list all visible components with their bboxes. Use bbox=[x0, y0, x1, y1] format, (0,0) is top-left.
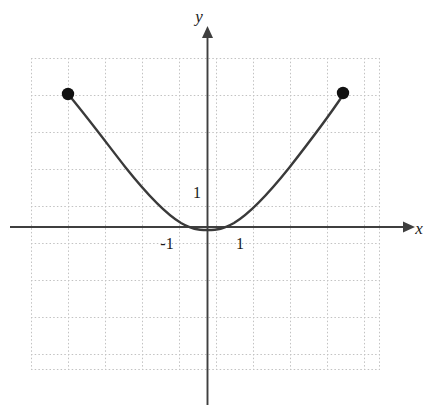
y-tick-label-one: 1 bbox=[193, 184, 201, 201]
x-axis-label: x bbox=[414, 219, 423, 238]
x-tick-label-one: 1 bbox=[236, 235, 244, 252]
x-axis-arrow-icon bbox=[403, 222, 415, 233]
x-tick-label-minus-one: -1 bbox=[160, 235, 173, 252]
grid-area bbox=[31, 58, 380, 370]
graph-figure: y x -1 1 1 bbox=[0, 0, 433, 405]
left-endpoint-dot bbox=[62, 88, 74, 100]
graph-canvas: y x -1 1 1 bbox=[0, 0, 433, 405]
right-endpoint-dot bbox=[337, 87, 349, 99]
y-axis-arrow-icon bbox=[202, 26, 213, 38]
grid bbox=[31, 58, 380, 370]
y-axis-label: y bbox=[193, 7, 203, 26]
